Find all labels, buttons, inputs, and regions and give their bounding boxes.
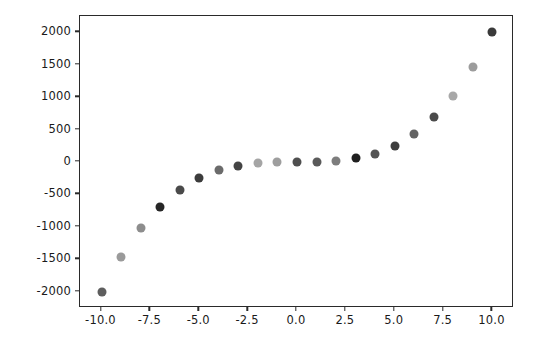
y-axis-tick-label: -2000: [37, 284, 71, 298]
scatter-point: [156, 202, 165, 211]
x-axis-tick-label: 10.0: [478, 313, 504, 327]
x-axis-tick-mark: [442, 307, 443, 311]
y-axis-tick-mark: [75, 31, 79, 32]
y-axis-tick-mark: [75, 290, 79, 291]
y-axis-tick-label: -500: [44, 186, 71, 200]
scatter-point: [253, 159, 262, 168]
y-axis-tick-label: 2000: [41, 24, 71, 38]
scatter-point: [332, 156, 341, 165]
scatter-point: [449, 91, 458, 100]
y-axis-tick-label: 1000: [41, 89, 71, 103]
y-axis-tick-mark: [75, 160, 79, 161]
x-axis-tick-mark: [393, 307, 394, 311]
x-axis-tick-mark: [295, 307, 296, 311]
scatter-point: [117, 252, 126, 261]
x-axis-tick-label: 5.0: [384, 313, 403, 327]
scatter-point: [351, 154, 360, 163]
y-axis-tick-mark: [75, 128, 79, 129]
x-axis-tick-mark: [100, 307, 101, 311]
scatter-point: [195, 174, 204, 183]
plot-data-surface: [80, 16, 512, 306]
x-axis-tick-label: -7.5: [138, 313, 161, 327]
scatter-point: [488, 28, 497, 37]
y-axis-tick-mark: [75, 95, 79, 96]
x-axis-tick-mark: [149, 307, 150, 311]
x-axis-tick-label: -5.0: [187, 313, 210, 327]
y-axis-tick-mark: [75, 258, 79, 259]
scatter-point: [273, 158, 282, 167]
figure-canvas: -10.0-7.5-5.0-2.50.02.55.07.510.0 200015…: [0, 0, 538, 350]
scatter-point: [214, 166, 223, 175]
scatter-point: [410, 129, 419, 138]
y-axis-tick-mark: [75, 225, 79, 226]
x-axis-tick-label: 0.0: [287, 313, 306, 327]
scatter-point: [97, 287, 106, 296]
x-axis-tick-label: 7.5: [433, 313, 452, 327]
scatter-point: [136, 224, 145, 233]
x-axis-tick-label: -10.0: [85, 313, 116, 327]
scatter-point: [429, 113, 438, 122]
y-axis-tick-label: -1500: [37, 251, 71, 265]
y-axis-tick-label: 0: [63, 154, 71, 168]
x-axis-tick-label: 2.5: [335, 313, 354, 327]
scatter-point: [468, 63, 477, 72]
y-axis-tick-mark: [75, 193, 79, 194]
x-axis-tick-label: -2.5: [236, 313, 259, 327]
y-axis-tick-mark: [75, 63, 79, 64]
scatter-point: [312, 157, 321, 166]
x-axis-tick-mark: [491, 307, 492, 311]
y-axis-tick-label: -1000: [37, 219, 71, 233]
x-axis-tick-mark: [246, 307, 247, 311]
scatter-point: [293, 158, 302, 167]
y-axis-tick-label: 1500: [41, 57, 71, 71]
x-axis-tick-mark: [344, 307, 345, 311]
y-axis-tick-label: 500: [48, 122, 71, 136]
scatter-point: [175, 186, 184, 195]
scatter-point: [234, 161, 243, 170]
plot-axes-frame: [79, 15, 513, 307]
scatter-point: [390, 141, 399, 150]
x-axis-tick-mark: [198, 307, 199, 311]
scatter-point: [371, 149, 380, 158]
